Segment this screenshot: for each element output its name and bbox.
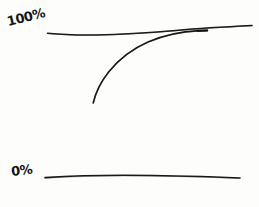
y-axis-label-0-percent: 0% <box>10 162 33 179</box>
upper-reference-line-texture <box>49 26 252 35</box>
sketch-canvas-root: 100% 0% <box>0 0 259 207</box>
upper-reference-line <box>48 26 253 35</box>
growth-curve-texture <box>94 31 198 102</box>
growth-curve-end-stub <box>197 31 208 32</box>
chart-drawing <box>0 0 259 207</box>
